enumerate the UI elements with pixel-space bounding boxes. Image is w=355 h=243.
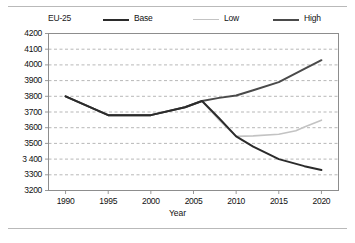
- x-axis-tick-label: 1990: [46, 196, 86, 206]
- x-axis-tick-label: 2000: [131, 196, 171, 206]
- x-axis-tick-label: 2020: [301, 196, 341, 206]
- y-axis-tick-label: 3 400: [8, 154, 42, 164]
- y-axis-tick-label: 4200: [8, 28, 42, 38]
- y-axis-tick-label: 3500: [8, 138, 42, 148]
- x-axis-tick-label: 2005: [174, 196, 214, 206]
- y-axis-tick-label: 3200: [8, 185, 42, 195]
- x-axis-tick-label: 1995: [88, 196, 128, 206]
- y-axis-tick-label: 4000: [8, 59, 42, 69]
- y-axis-tick-label: 3800: [8, 91, 42, 101]
- x-axis-title: Year: [0, 208, 355, 218]
- y-axis-tick-label: 4100: [8, 44, 42, 54]
- y-axis-tick-label: 3600: [8, 122, 42, 132]
- chart-plot-area: [0, 0, 355, 243]
- x-axis-tick-label: 2015: [259, 196, 299, 206]
- y-axis-tick-label: 3900: [8, 75, 42, 85]
- x-axis-tick-label: 2010: [216, 196, 256, 206]
- y-axis-tick-label: 3700: [8, 107, 42, 117]
- y-axis-tick-label: 3300: [8, 169, 42, 179]
- figure-container: EU-25 BaseLowHigh Year 42004100400039003…: [0, 0, 355, 243]
